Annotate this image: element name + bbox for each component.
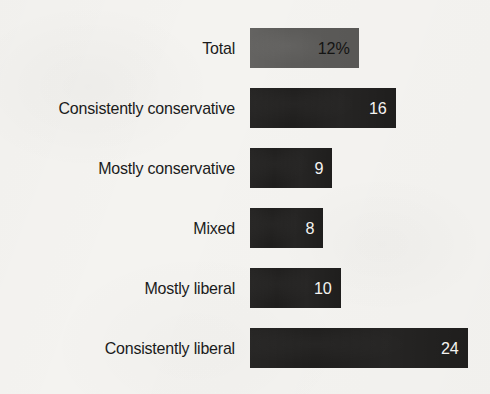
- bar-track: 10: [250, 268, 490, 308]
- bar-row: Consistently conservative16: [0, 88, 490, 128]
- horizontal-bar-chart: Total12%Consistently conservative16Mostl…: [0, 0, 490, 394]
- bar-category-label: Mixed: [14, 220, 235, 237]
- bar-row: Mostly conservative9: [0, 148, 490, 188]
- bar-rect: 12%: [250, 28, 359, 68]
- bar-value-label: 12%: [318, 40, 350, 57]
- bar-value-label: 8: [305, 220, 314, 237]
- bar-value-label: 24: [441, 340, 459, 357]
- bar-track: 9: [250, 148, 490, 188]
- bar-track: 12%: [250, 28, 490, 68]
- bar-rect: 9: [250, 148, 332, 188]
- bar-track: 8: [250, 208, 490, 248]
- bar-track: 16: [250, 88, 490, 128]
- bar-category-label: Mostly conservative: [14, 160, 235, 177]
- bar-rect: 16: [250, 88, 396, 128]
- bar-value-label: 9: [314, 160, 323, 177]
- bar-row: Total12%: [0, 28, 490, 68]
- bar-row: Consistently liberal24: [0, 328, 490, 368]
- bar-category-label: Consistently conservative: [14, 100, 235, 117]
- bar-track: 24: [250, 328, 490, 368]
- bar-rect: 24: [250, 328, 468, 368]
- bar-category-label: Mostly liberal: [14, 280, 235, 297]
- bar-value-label: 10: [314, 280, 332, 297]
- bar-rect: 8: [250, 208, 323, 248]
- bar-row: Mostly liberal10: [0, 268, 490, 308]
- bar-row: Mixed8: [0, 208, 490, 248]
- bar-category-label: Total: [14, 40, 235, 57]
- bar-value-label: 16: [369, 100, 387, 117]
- bar-category-label: Consistently liberal: [14, 340, 235, 357]
- bar-rect: 10: [250, 268, 341, 308]
